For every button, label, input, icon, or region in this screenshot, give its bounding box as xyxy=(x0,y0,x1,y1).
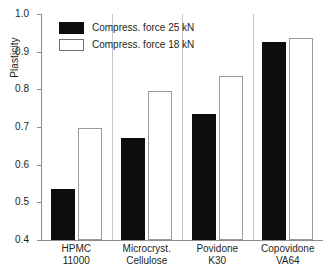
y-tick-mark xyxy=(37,89,41,90)
y-tick-mark xyxy=(37,240,41,241)
y-tick-label: 0.5 xyxy=(0,197,29,207)
x-axis-label: HPMC11000 xyxy=(41,243,112,267)
bar-18kn xyxy=(78,128,102,240)
y-tick-mark xyxy=(37,14,41,15)
category-separator xyxy=(253,14,254,240)
legend-label-18kn: Compress. force 18 kN xyxy=(92,40,194,50)
bar-25kn xyxy=(262,42,286,240)
bar-25kn xyxy=(121,138,145,240)
y-tick-label: 0.4 xyxy=(0,235,29,245)
y-tick-label: 0.8 xyxy=(0,84,29,94)
y-tick-label: 0.9 xyxy=(0,47,29,57)
bar-18kn xyxy=(289,38,313,240)
y-tick-mark xyxy=(37,165,41,166)
legend-item-18kn: Compress. force 18 kN xyxy=(59,36,194,53)
y-tick-label: 1.0 xyxy=(0,9,29,19)
plasticity-bar-chart: Plasticity 1.00.90.80.70.60.50.4 HPMC110… xyxy=(0,0,330,276)
bar-25kn xyxy=(51,189,75,240)
x-axis-label: Microcryst.Cellulose xyxy=(112,243,183,267)
y-axis-line xyxy=(41,14,42,241)
bar-18kn xyxy=(148,91,172,240)
legend-swatch-light-icon xyxy=(59,39,84,51)
legend-swatch-dark-icon xyxy=(59,22,84,34)
x-axis-label: CopovidoneVA64 xyxy=(253,243,324,267)
y-tick-label: 0.6 xyxy=(0,160,29,170)
y-tick-label: 0.7 xyxy=(0,122,29,132)
y-tick-mark xyxy=(37,52,41,53)
x-axis-label: PovidoneK30 xyxy=(182,243,253,267)
x-axis-line xyxy=(41,240,323,241)
y-tick-mark xyxy=(37,202,41,203)
legend-label-25kn: Compress. force 25 kN xyxy=(92,23,194,33)
y-tick-mark xyxy=(37,127,41,128)
bar-18kn xyxy=(219,76,243,240)
bar-25kn xyxy=(192,114,216,240)
legend-item-25kn: Compress. force 25 kN xyxy=(59,19,194,36)
chart-legend: Compress. force 25 kN Compress. force 18… xyxy=(59,19,194,53)
